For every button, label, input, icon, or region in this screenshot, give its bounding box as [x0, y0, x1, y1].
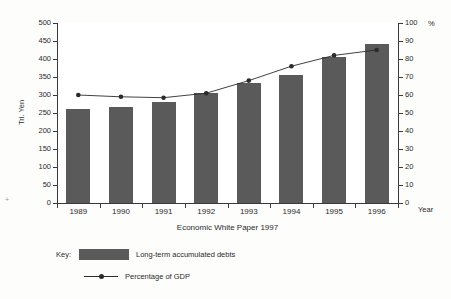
legend-key-label: Key: [56, 250, 71, 259]
scan-artifact: + [5, 196, 9, 203]
gdp-marker-1991 [161, 95, 166, 100]
line-series-percentage-of-gdp [57, 23, 398, 203]
gdp-marker-1992 [204, 91, 209, 96]
y-left-tick-label-400: 400 [11, 55, 51, 63]
y-left-tick-400 [53, 59, 57, 60]
gdp-marker-1993 [247, 78, 252, 83]
y-left-tick-label-150: 150 [11, 145, 51, 153]
y-right-tick-label-50: 50 [405, 109, 435, 117]
gdp-marker-1996 [374, 48, 379, 53]
x-tick-label-1994: 1994 [267, 208, 315, 216]
y-right-tick-20 [399, 167, 403, 168]
gdp-marker-1989 [76, 93, 81, 98]
y-left-tick-150 [53, 149, 57, 150]
y-right-tick-10 [399, 185, 403, 186]
gdp-marker-1994 [289, 64, 294, 69]
y-left-tick-100 [53, 167, 57, 168]
y-right-tick-100 [399, 23, 403, 24]
x-axis-title: Year [418, 205, 433, 214]
source-caption: Economic White Paper 1997 [57, 223, 398, 232]
legend-item-long-term-accumulated-debts: Key: Long-term accumulated debts [56, 248, 235, 261]
x-tick-label-1992: 1992 [182, 208, 230, 216]
y-right-tick-90 [399, 41, 403, 42]
y-left-tick-200 [53, 131, 57, 132]
gdp-marker-1990 [119, 95, 124, 100]
legend-label-debts: Long-term accumulated debts [136, 250, 235, 259]
y-right-tick-70 [399, 77, 403, 78]
legend-label-gdp: Percentage of GDP [125, 272, 190, 281]
x-tick-label-1991: 1991 [140, 208, 188, 216]
y-right-tick-label-70: 70 [405, 73, 435, 81]
legend-item-percentage-of-gdp: Percentage of GDP [84, 270, 235, 283]
x-tick-label-1990: 1990 [97, 208, 145, 216]
y-left-tick-500 [53, 23, 57, 24]
y-left-tick-300 [53, 95, 57, 96]
x-tick-label-1989: 1989 [54, 208, 102, 216]
y-right-tick-label-10: 10 [405, 181, 435, 189]
y-axis-right-title: % [428, 19, 435, 28]
y-left-tick-label-500: 500 [11, 19, 51, 27]
y-right-tick-30 [399, 149, 403, 150]
y-right-tick-label-80: 80 [405, 55, 435, 63]
y-left-tick-350 [53, 77, 57, 78]
gdp-marker-1995 [332, 53, 337, 58]
legend-swatch-icon [79, 249, 129, 260]
chart-figure: 050100150200250300350400450500 010203040… [0, 0, 451, 299]
y-left-tick-label-100: 100 [11, 163, 51, 171]
y-left-tick-50 [53, 185, 57, 186]
x-tick-label-1993: 1993 [225, 208, 273, 216]
y-right-tick-60 [399, 95, 403, 96]
y-right-tick-80 [399, 59, 403, 60]
y-left-tick-label-50: 50 [11, 181, 51, 189]
y-right-tick-40 [399, 131, 403, 132]
y-right-tick-label-20: 20 [405, 163, 435, 171]
y-right-tick-label-90: 90 [405, 37, 435, 45]
y-left-tick-label-350: 350 [11, 73, 51, 81]
y-axis-left-line [57, 23, 58, 204]
y-right-tick-50 [399, 113, 403, 114]
y-right-tick-label-30: 30 [405, 145, 435, 153]
legend-line-marker-icon [84, 272, 118, 281]
y-axis-left-title: Tri. Yen [17, 83, 26, 143]
y-right-tick-label-40: 40 [405, 127, 435, 135]
y-left-tick-label-450: 450 [11, 37, 51, 45]
x-tick-label-1996: 1996 [353, 208, 401, 216]
y-left-tick-label-0: 0 [11, 199, 51, 207]
gdp-line-path [78, 50, 376, 98]
y-left-tick-450 [53, 41, 57, 42]
y-right-tick-label-60: 60 [405, 91, 435, 99]
y-right-tick-0 [399, 203, 403, 204]
x-tick-label-1995: 1995 [310, 208, 358, 216]
y-left-tick-250 [53, 113, 57, 114]
chart-legend: Key: Long-term accumulated debts Percent… [56, 248, 235, 283]
